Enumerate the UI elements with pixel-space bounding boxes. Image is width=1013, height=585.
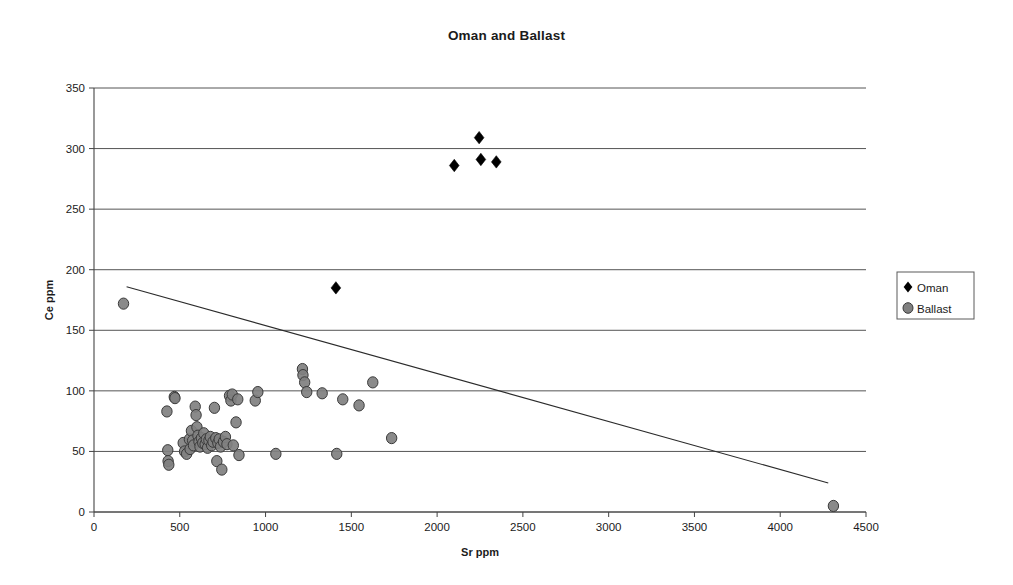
legend: OmanBallast bbox=[897, 272, 974, 319]
data-point bbox=[491, 156, 501, 168]
y-tick-label-300: 300 bbox=[66, 143, 85, 155]
data-point bbox=[338, 394, 348, 405]
data-point bbox=[162, 406, 172, 417]
data-point bbox=[332, 448, 342, 459]
x-tick-label-3000: 3000 bbox=[596, 521, 622, 533]
data-point bbox=[233, 394, 243, 405]
y-tick-label-200: 200 bbox=[66, 264, 85, 276]
data-point bbox=[253, 386, 263, 397]
data-point bbox=[228, 440, 238, 451]
x-tick-label-2000: 2000 bbox=[424, 521, 450, 533]
x-tick-label-4000: 4000 bbox=[767, 521, 793, 533]
data-point bbox=[231, 417, 241, 428]
y-tick-label-350: 350 bbox=[66, 82, 85, 94]
data-point bbox=[217, 464, 227, 475]
data-point bbox=[163, 445, 173, 456]
data-point bbox=[302, 386, 312, 397]
y-tick-label-150: 150 bbox=[66, 324, 85, 336]
y-axis-label: Ce ppm bbox=[43, 280, 55, 321]
data-point bbox=[476, 153, 486, 165]
x-axis: 050010001500200025003000350040004500Sr p… bbox=[91, 512, 879, 558]
y-tick-label-250: 250 bbox=[66, 203, 85, 215]
data-point bbox=[317, 388, 327, 399]
y-tick-label-0: 0 bbox=[79, 506, 85, 518]
data-point bbox=[191, 409, 201, 420]
data-point bbox=[209, 402, 219, 413]
x-axis-label: Sr ppm bbox=[461, 546, 499, 558]
data-point bbox=[354, 400, 364, 411]
scatter-plot-svg: 050100150200250300350Ce ppm0500100015002… bbox=[0, 0, 1013, 585]
legend-label-ballast: Ballast bbox=[917, 303, 952, 315]
x-tick-label-1000: 1000 bbox=[253, 521, 279, 533]
legend-label-oman: Oman bbox=[917, 282, 948, 294]
chart-container: Oman and Ballast 050100150200250300350Ce… bbox=[0, 0, 1013, 585]
data-point bbox=[331, 282, 341, 294]
data-point bbox=[368, 377, 378, 388]
y-axis: 050100150200250300350Ce ppm bbox=[43, 82, 94, 518]
legend-marker-circle bbox=[903, 303, 913, 314]
data-point bbox=[449, 159, 459, 171]
data-point bbox=[234, 449, 244, 460]
x-tick-label-3500: 3500 bbox=[682, 521, 708, 533]
data-point bbox=[474, 131, 484, 143]
y-tick-label-50: 50 bbox=[72, 445, 85, 457]
data-point bbox=[164, 459, 174, 470]
data-point bbox=[170, 393, 180, 404]
x-tick-label-0: 0 bbox=[91, 521, 97, 533]
x-tick-label-2500: 2500 bbox=[510, 521, 536, 533]
x-tick-label-1500: 1500 bbox=[339, 521, 365, 533]
data-point bbox=[118, 298, 128, 309]
x-tick-label-500: 500 bbox=[170, 521, 189, 533]
data-point bbox=[271, 448, 281, 459]
data-point bbox=[386, 433, 396, 444]
y-tick-label-100: 100 bbox=[66, 385, 85, 397]
trendline bbox=[127, 287, 829, 483]
x-tick-label-4500: 4500 bbox=[853, 521, 879, 533]
data-point bbox=[828, 500, 838, 511]
